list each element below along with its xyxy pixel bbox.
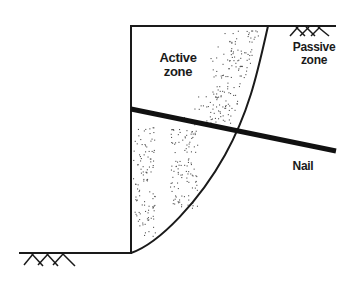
ground-hatch-top-right-icon (290, 27, 329, 36)
ground-hatch-bottom-left-icon (24, 254, 75, 266)
passive-zone-label: Passive zone (284, 41, 344, 67)
passive-zone-label-line2: zone (284, 54, 344, 67)
nail (131, 109, 336, 151)
nail-label: Nail (288, 159, 318, 173)
active-zone-label-line1: Active (150, 51, 206, 65)
active-zone-label: Active zone (150, 51, 206, 79)
active-zone-label-line2: zone (150, 65, 206, 79)
